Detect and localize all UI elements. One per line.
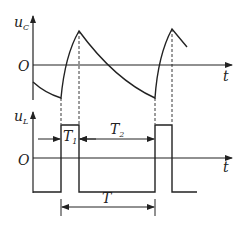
top-origin-label: O [18, 58, 30, 74]
top-x-label: t [223, 68, 229, 84]
top-y-label: uC [14, 14, 29, 32]
bottom-y-label: uL [14, 108, 28, 126]
t1-label: T1 [63, 128, 77, 146]
bottom-plot: uL O t T1 T2 T [14, 108, 232, 216]
waveform-diagram: uC O t uL O t T1 T2 [0, 0, 239, 227]
bottom-origin-label: O [18, 152, 30, 168]
t2-label: T2 [110, 121, 124, 139]
bottom-x-label: t [223, 159, 229, 175]
capacitor-voltage-curve [33, 29, 187, 98]
top-plot: uC O t [14, 14, 232, 124]
